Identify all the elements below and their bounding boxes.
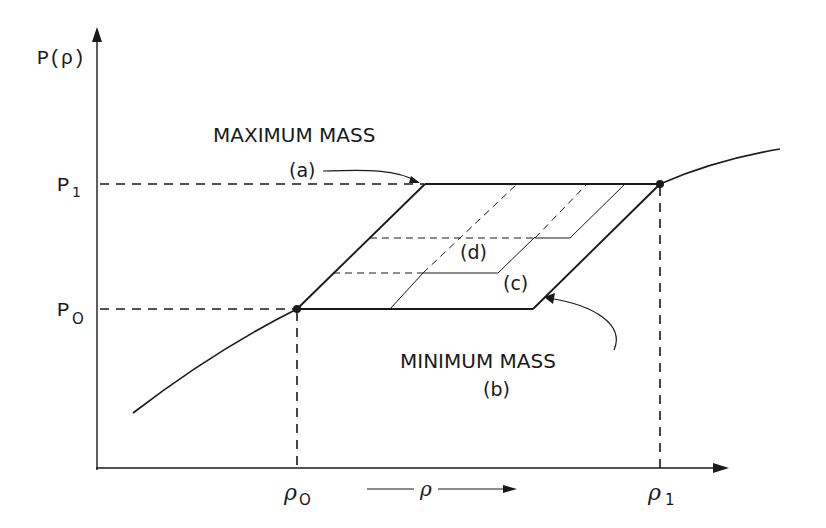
svg-text:P: P bbox=[57, 174, 70, 197]
right-edge bbox=[533, 184, 660, 309]
guide-lines bbox=[100, 184, 660, 468]
max-mass-arrowhead-icon bbox=[409, 176, 420, 183]
x-axis-label: ρ bbox=[419, 477, 432, 501]
x-tick-rho1: ρ 1 bbox=[647, 480, 675, 509]
max-mass-arrow bbox=[323, 170, 418, 182]
eos-curve-upper bbox=[660, 149, 780, 184]
svg-text:O: O bbox=[72, 310, 84, 328]
maximum-mass-tag: (a) bbox=[289, 159, 315, 181]
diagram-canvas: P(ρ) P 1 P O ρ O ρ 1 ρ MAXIMUM MASS (a) … bbox=[0, 0, 826, 528]
x-axis bbox=[96, 463, 729, 473]
inner-path-d bbox=[370, 184, 625, 238]
path-d-tag: (d) bbox=[460, 241, 487, 263]
eos-curve bbox=[133, 149, 780, 413]
eos-curve-lower bbox=[133, 309, 297, 413]
svg-text:1: 1 bbox=[665, 491, 675, 509]
svg-text:P: P bbox=[57, 299, 70, 322]
svg-text:ρ: ρ bbox=[647, 480, 661, 505]
y-axis bbox=[92, 27, 102, 470]
point-rho0-p0 bbox=[293, 305, 301, 313]
y-axis-arrow-icon bbox=[92, 27, 102, 42]
x-direction-arrow-icon bbox=[503, 485, 517, 493]
maximum-mass-label: MAXIMUM MASS bbox=[213, 123, 375, 147]
svg-text:O: O bbox=[299, 491, 311, 509]
left-edge bbox=[297, 184, 425, 309]
min-mass-arrow bbox=[548, 298, 616, 350]
path-c-tag: (c) bbox=[503, 272, 528, 294]
y-tick-p0: P O bbox=[57, 299, 84, 328]
point-rho1-p1 bbox=[656, 180, 664, 188]
y-axis-label: P(ρ) bbox=[37, 47, 85, 70]
svg-text:ρ: ρ bbox=[283, 480, 297, 505]
y-tick-p1: P 1 bbox=[57, 174, 81, 200]
minimum-mass-label: MINIMUM MASS bbox=[400, 349, 556, 373]
minimum-mass-tag: (b) bbox=[483, 378, 510, 400]
x-axis-arrow-icon bbox=[713, 463, 729, 473]
min-mass-arrowhead-icon bbox=[544, 293, 555, 304]
x-tick-rho0: ρ O bbox=[283, 480, 311, 509]
svg-text:1: 1 bbox=[72, 184, 81, 200]
x-axis-label-arrow: ρ bbox=[367, 477, 517, 501]
